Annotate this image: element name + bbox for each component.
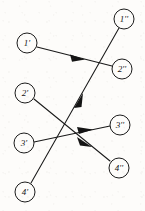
edge-3p-to-3pp: [34, 126, 110, 142]
node-2-double-prime-label: 2'': [118, 64, 127, 74]
mapping-diagram: 1' 2' 3' 4' 1'' 2'': [0, 0, 145, 211]
mapping-canvas: 1' 2' 3' 4' 1'' 2'': [0, 0, 145, 211]
node-2-double-prime[interactable]: 2'': [112, 59, 132, 79]
node-1-double-prime-label: 1'': [120, 14, 129, 24]
node-3-prime-label: 3': [20, 138, 29, 148]
node-2-prime-label: 2': [22, 88, 30, 98]
edge-4p-to-1pp: [31, 28, 119, 183]
node-3-double-prime[interactable]: 3'': [110, 115, 130, 135]
node-1-prime[interactable]: 1': [17, 33, 37, 53]
node-4-prime-label: 4': [22, 187, 30, 197]
node-4-prime[interactable]: 4': [15, 182, 35, 202]
edge-group: [31, 28, 119, 183]
edge-2p-to-4pp: [34, 99, 110, 161]
node-4-double-prime[interactable]: 4'': [109, 158, 129, 178]
source-node-group: 1' 2' 3' 4': [14, 33, 37, 202]
arrowhead-2p-to-4pp: [77, 137, 92, 147]
node-3-double-prime-label: 3'': [115, 120, 125, 130]
node-1-prime-label: 1': [24, 38, 32, 48]
node-3-prime[interactable]: 3': [14, 133, 34, 153]
target-node-group: 1'' 2'' 3'' 4'': [109, 9, 134, 178]
node-4-double-prime-label: 4'': [115, 163, 124, 173]
node-1-double-prime[interactable]: 1'': [114, 9, 134, 29]
node-2-prime[interactable]: 2': [15, 83, 35, 103]
